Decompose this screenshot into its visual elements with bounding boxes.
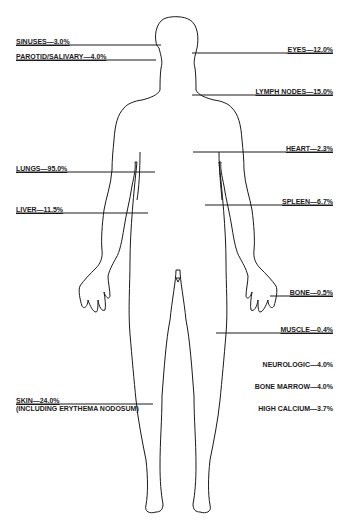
label-eyes: EYES—12.0%	[287, 46, 333, 54]
label-sinuses: SINUSES—3.0%	[16, 38, 70, 46]
body-outline	[79, 17, 277, 513]
label-parotid: PAROTID/SALIVARY—4.0%	[16, 53, 107, 61]
label-bone-marrow: BONE MARROW—4.0%	[255, 383, 333, 391]
label-bone: BONE—0.5%	[290, 289, 333, 297]
label-heart: HEART—2.3%	[286, 145, 333, 153]
body-diagram	[0, 0, 347, 531]
label-lungs: LUNGS—95.0%	[16, 165, 67, 173]
label-muscle: MUSCLE—0.4%	[280, 326, 333, 334]
label-spleen: SPLEEN—6.7%	[282, 198, 333, 206]
label-high-calcium: HIGH CALCIUM—3.7%	[258, 405, 333, 413]
left-inner-arm	[137, 152, 140, 200]
label-liver: LIVER—11.5%	[16, 206, 63, 214]
label-neurologic: NEUROLOGIC—4.0%	[263, 361, 333, 369]
label-skin: SKIN—24.0%	[16, 397, 60, 405]
crotch	[176, 278, 180, 282]
label-lymph-nodes: LYMPH NODES—15.0%	[255, 88, 333, 96]
label-skin-note: (INCLUDING ERYTHEMA NODOSUM)	[16, 405, 139, 413]
